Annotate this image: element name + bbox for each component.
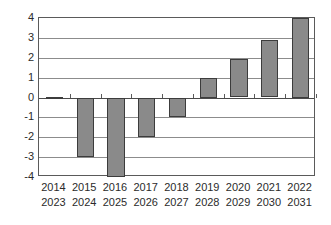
bars-layer	[39, 18, 314, 175]
y-axis-tick-label: 3	[14, 31, 34, 42]
x-tick-mark	[316, 94, 317, 98]
bar[interactable]	[169, 98, 186, 118]
x-tick-mark	[193, 94, 194, 98]
x-axis-tick-label: 2025	[100, 195, 131, 210]
x-axis-tick-label: 2020	[223, 180, 254, 195]
bar-slot	[193, 18, 224, 175]
y-axis-tick-label: 2	[14, 51, 34, 62]
x-axis-label-row-secondary: 202320242025202620272028202920302031	[38, 195, 315, 210]
x-axis-tick-label: 2016	[100, 180, 131, 195]
x-axis-tick-label: 2022	[284, 180, 315, 195]
x-axis-tick-label: 2019	[192, 180, 223, 195]
x-tick-mark	[285, 94, 286, 98]
x-axis-tick-label: 2023	[38, 195, 69, 210]
y-axis-tick-label: 4	[14, 12, 34, 23]
x-axis-tick-label: 2030	[253, 195, 284, 210]
y-axis-tick-label: -4	[14, 171, 34, 182]
bar-slot	[254, 18, 285, 175]
x-axis-tick-label: 2026	[130, 195, 161, 210]
bar[interactable]	[292, 18, 309, 98]
bar[interactable]	[261, 40, 278, 98]
plot-area	[38, 17, 315, 176]
x-tick-mark	[162, 94, 163, 98]
bar[interactable]	[77, 98, 94, 158]
bar[interactable]	[138, 98, 155, 138]
bar-slot	[131, 18, 162, 175]
x-axis: 201420152016201720182019202020212022 202…	[38, 180, 315, 210]
x-axis-tick-label: 2027	[161, 195, 192, 210]
x-axis-tick-label: 2015	[69, 180, 100, 195]
x-axis-label-row-primary: 201420152016201720182019202020212022	[38, 180, 315, 195]
y-axis-tick-label: -1	[14, 111, 34, 122]
x-axis-tick-label: 2021	[253, 180, 284, 195]
bar-slot	[285, 18, 316, 175]
x-axis-tick-label: 2028	[192, 195, 223, 210]
bar[interactable]	[230, 59, 247, 98]
y-axis-tick-label: 1	[14, 71, 34, 82]
y-axis: 43210-1-2-3-4	[14, 17, 34, 176]
bar[interactable]	[107, 98, 124, 178]
x-axis-tick-label: 2017	[130, 180, 161, 195]
y-axis-tick-label: -3	[14, 151, 34, 162]
x-tick-mark	[70, 94, 71, 98]
x-axis-tick-label: 2014	[38, 180, 69, 195]
bar-chart: 43210-1-2-3-4 20142015201620172018201920…	[0, 0, 331, 225]
bar[interactable]	[46, 97, 63, 99]
bar-slot	[70, 18, 101, 175]
bar-slot	[39, 18, 70, 175]
x-axis-tick-label: 2029	[223, 195, 254, 210]
x-axis-tick-label: 2018	[161, 180, 192, 195]
x-tick-mark	[101, 94, 102, 98]
bar-slot	[162, 18, 193, 175]
x-tick-mark	[254, 94, 255, 98]
bar[interactable]	[200, 78, 217, 98]
bar-slot	[224, 18, 255, 175]
bar-slot	[101, 18, 132, 175]
y-axis-tick-label: 0	[14, 91, 34, 102]
x-tick-mark	[131, 94, 132, 98]
y-axis-tick-label: -2	[14, 131, 34, 142]
x-axis-tick-label: 2031	[284, 195, 315, 210]
x-axis-tick-label: 2024	[69, 195, 100, 210]
x-tick-mark	[224, 94, 225, 98]
